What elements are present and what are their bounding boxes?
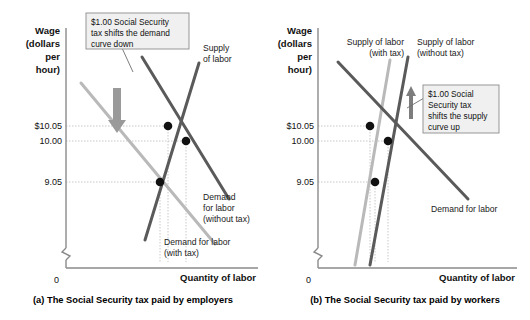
point-wage-1005: [366, 122, 375, 131]
axes-b: [314, 28, 517, 268]
callout-b: $1.00 Social Security tax shifts the sup…: [407, 85, 499, 133]
label-demand-for-labor: Demand for labor: [431, 204, 498, 214]
origin-label-a: 0: [54, 275, 59, 285]
axes-a: [62, 28, 258, 268]
svg-text:$10.05: $10.05: [286, 121, 314, 131]
callout-a: $1.00 Social Security tax shifts the dem…: [86, 13, 189, 72]
svg-text:$1.00 Social Security: $1.00 Social Security: [91, 17, 170, 27]
panel-a-employers: Wage (dollars per hour) $10.05 10.00 9.0…: [0, 0, 265, 320]
y-axis-title-a: Wage (dollars per hour): [26, 25, 61, 75]
svg-text:curve down: curve down: [91, 39, 134, 49]
y-tick-labels-a: $10.05 10.00 9.05: [34, 121, 62, 187]
gridlines-b: [318, 126, 388, 262]
svg-text:(without tax): (without tax): [417, 48, 464, 58]
svg-text:$10.05: $10.05: [34, 121, 62, 131]
shift-up-arrow: [406, 86, 416, 119]
panel-b-workers: Wage (dollars per hour) $10.05 10.00 9.0…: [265, 0, 530, 320]
panel-b-chart: Wage (dollars per hour) $10.05 10.00 9.0…: [265, 0, 530, 320]
svg-text:Demand for labor: Demand for labor: [431, 204, 498, 214]
axis-break-mark: [314, 248, 322, 260]
caption-a: (a) The Social Security tax paid by empl…: [33, 295, 233, 305]
x-axis-title-b: Quantity of labor: [439, 272, 515, 283]
svg-text:(with tax): (with tax): [164, 248, 199, 258]
y-axis-title-b: Wage (dollars per hour): [278, 25, 313, 75]
label-supply-with-tax: Supply of labor (with tax): [347, 37, 404, 58]
svg-text:$1.00 Social: $1.00 Social: [428, 89, 474, 99]
point-wage-1005: [164, 122, 173, 131]
svg-text:hour): hour): [36, 64, 60, 75]
equilibrium-points-a: [156, 122, 191, 187]
svg-text:per: per: [45, 51, 60, 62]
svg-text:of labor: of labor: [203, 54, 232, 64]
demand-with-tax-curve: [81, 83, 215, 244]
svg-text:(dollars: (dollars: [278, 38, 312, 49]
label-demand-with-tax: Demand for labor (with tax): [164, 237, 231, 258]
economics-figure: Wage (dollars per hour) $10.05 10.00 9.0…: [0, 0, 530, 320]
svg-text:9.05: 9.05: [44, 177, 62, 187]
svg-text:Security tax: Security tax: [428, 100, 472, 110]
svg-text:Wage: Wage: [287, 25, 312, 36]
svg-text:for labor: for labor: [203, 203, 235, 213]
svg-text:10.00: 10.00: [291, 136, 314, 146]
point-wage-1000: [182, 137, 191, 146]
svg-text:Wage: Wage: [35, 25, 60, 36]
svg-text:tax shifts the demand: tax shifts the demand: [91, 28, 170, 38]
svg-text:curve up: curve up: [428, 122, 460, 132]
svg-text:(dollars: (dollars: [26, 38, 60, 49]
supply-without-tax-curve: [370, 57, 408, 265]
callout-leader-line-a: [122, 48, 133, 72]
arrow-up-glyph: [406, 86, 416, 119]
svg-text:Demand for labor: Demand for labor: [164, 237, 231, 247]
supply-with-tax-curve: [355, 60, 390, 265]
svg-text:9.05: 9.05: [296, 177, 314, 187]
label-demand-without-tax: Demand for labor (without tax): [203, 192, 250, 224]
svg-text:per: per: [297, 51, 312, 62]
origin-label-b: 0: [306, 275, 311, 285]
svg-text:Supply of labor: Supply of labor: [347, 37, 404, 47]
axis-break-mark: [62, 248, 70, 260]
label-supply-without-tax: Supply of labor (without tax): [417, 37, 474, 58]
svg-text:Demand: Demand: [203, 192, 236, 202]
svg-text:10.00: 10.00: [39, 136, 62, 146]
y-tick-labels-b: $10.05 10.00 9.05: [286, 121, 314, 187]
svg-text:(without tax): (without tax): [203, 214, 250, 224]
svg-text:hour): hour): [288, 64, 312, 75]
svg-text:Supply: Supply: [203, 43, 230, 53]
x-axis-title-a: Quantity of labor: [180, 272, 256, 283]
point-wage-905: [156, 178, 165, 187]
caption-b: (b) The Social Security tax paid by work…: [310, 295, 500, 305]
panel-a-chart: Wage (dollars per hour) $10.05 10.00 9.0…: [0, 0, 265, 320]
point-wage-1000: [384, 137, 393, 146]
svg-text:shifts the supply: shifts the supply: [428, 111, 488, 121]
point-wage-905: [371, 178, 380, 187]
svg-text:Supply of labor: Supply of labor: [417, 37, 474, 47]
svg-text:(with tax): (with tax): [369, 48, 404, 58]
label-supply-of-labor: Supply of labor: [203, 43, 232, 64]
